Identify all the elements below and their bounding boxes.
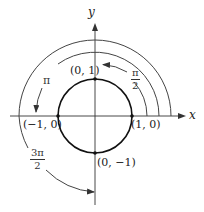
y-axis-label: y <box>88 6 95 18</box>
point-top-label: (0, 1) <box>70 65 100 76</box>
point-top <box>93 77 97 81</box>
arc-pi <box>58 52 159 116</box>
unit-circle-diagram: y x (0, 1) (1, 0) (−1, 0) (0, −1) π 2 π … <box>0 0 204 212</box>
point-bottom-label: (0, −1) <box>97 157 136 168</box>
arc-pi-lower <box>36 88 42 112</box>
point-bottom <box>93 151 97 155</box>
y-axis <box>92 23 98 205</box>
arc-half-pi-upper <box>103 65 127 72</box>
x-axis-arrow-icon <box>178 113 186 119</box>
y-axis-arrow-icon <box>92 23 98 31</box>
pi-label: π <box>43 75 50 86</box>
half-pi-label: π 2 <box>131 68 140 91</box>
x-axis-label: x <box>189 109 196 121</box>
three-half-pi-label: 3π 2 <box>30 148 45 171</box>
point-left-label: (−1, 0) <box>23 119 62 130</box>
arc-three-half-pi-lower <box>46 170 94 192</box>
diagram-canvas <box>0 0 204 212</box>
point-right-label: (1, 0) <box>131 119 161 130</box>
